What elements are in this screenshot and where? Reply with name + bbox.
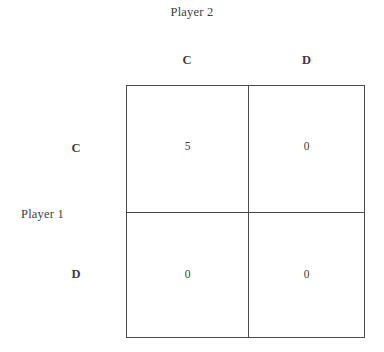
cell-value: 0 — [127, 269, 248, 281]
row-header-d: D — [56, 268, 96, 281]
player2-title: Player 2 — [0, 6, 384, 19]
cell-value: 0 — [249, 269, 364, 281]
matrix-cell: 0 — [249, 213, 364, 337]
column-header-c: C — [126, 54, 248, 67]
row-header-c: C — [56, 142, 96, 155]
column-header-d: D — [248, 54, 365, 67]
player1-title: Player 1 — [21, 208, 64, 221]
payoff-matrix-diagram: Player 2 C D Player 1 C D 5 0 0 0 — [0, 0, 384, 352]
cell-value: 5 — [127, 141, 248, 153]
matrix-grid: 5 0 0 0 — [126, 85, 365, 338]
cell-value: 0 — [249, 141, 364, 153]
matrix-cell: 0 — [127, 213, 248, 337]
matrix-cell: 0 — [249, 86, 364, 212]
matrix-cell: 5 — [127, 86, 248, 212]
